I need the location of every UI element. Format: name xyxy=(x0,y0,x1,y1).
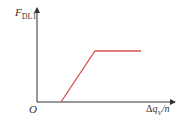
x-label-rest: /n xyxy=(162,103,170,114)
x-axis-label: ΔqV/n xyxy=(146,103,170,114)
y-label-subscript: DL1 xyxy=(22,12,37,21)
y-axis-label: FDL1 xyxy=(15,6,36,18)
x-label-subscript: V xyxy=(157,109,161,117)
y-label-main: F xyxy=(15,6,22,18)
origin-label: O xyxy=(29,103,37,115)
force-curve xyxy=(61,51,141,102)
